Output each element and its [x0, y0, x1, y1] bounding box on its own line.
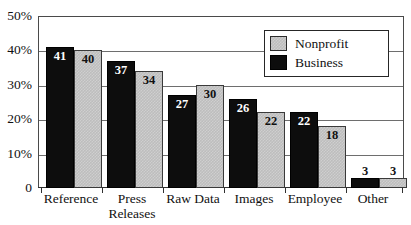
y-axis: 50% 40% 30% 20% 10% 0 — [0, 0, 36, 225]
bar-value: 26 — [230, 102, 256, 115]
x-label-other: Other — [340, 191, 406, 206]
legend-label: Business — [295, 56, 343, 70]
bar-business-other: 3 — [351, 178, 379, 188]
bar-value: 22 — [258, 115, 284, 128]
bar-value: 3 — [352, 165, 378, 178]
bar-value: 22 — [291, 115, 317, 128]
bar-nonprofit-other: 3 — [379, 178, 407, 188]
bar-value: 27 — [169, 98, 195, 111]
legend-item-nonprofit: Nonprofit — [270, 34, 383, 53]
bar-business-employee: 22 — [290, 112, 318, 188]
x-label-employee: Employee — [282, 191, 348, 206]
legend-swatch-business-icon — [270, 55, 287, 70]
bar-business-images: 26 — [229, 99, 257, 188]
bar-business-raw-data: 27 — [168, 95, 196, 188]
x-label-raw-data: Raw Data — [160, 191, 226, 206]
x-label-reference: Reference — [38, 191, 104, 206]
bar-value: 18 — [319, 129, 345, 142]
bar-business-press-releases: 37 — [107, 61, 135, 188]
bar-value: 3 — [380, 165, 406, 178]
x-label-images: Images — [221, 191, 287, 206]
x-label-press-releases: Press Releases — [99, 191, 165, 221]
bar-nonprofit-press-releases: 34 — [135, 71, 163, 188]
y-tick-label: 10% — [7, 147, 32, 161]
y-tick-label: 30% — [7, 78, 32, 92]
bar-nonprofit-employee: 18 — [318, 126, 346, 188]
bar-chart: 50% 40% 30% 20% 10% 0 41 40 37 34 27 — [0, 0, 411, 225]
bar-value: 41 — [47, 50, 73, 63]
bar-value: 40 — [75, 53, 101, 66]
y-tick-label: 0 — [25, 181, 32, 195]
y-tick-label: 50% — [7, 9, 32, 23]
bar-nonprofit-raw-data: 30 — [196, 85, 224, 188]
legend-label: Nonprofit — [295, 37, 348, 51]
legend-swatch-nonprofit-icon — [270, 36, 287, 51]
y-tick-label: 40% — [7, 44, 32, 58]
legend-item-business: Business — [270, 53, 383, 72]
chart-legend: Nonprofit Business — [264, 30, 389, 77]
bar-nonprofit-images: 22 — [257, 112, 285, 188]
bar-value: 30 — [197, 88, 223, 101]
bar-nonprofit-reference: 40 — [74, 50, 102, 188]
bar-value: 37 — [108, 64, 134, 77]
bar-business-reference: 41 — [46, 47, 74, 188]
y-tick-label: 20% — [7, 112, 32, 126]
bar-value: 34 — [136, 74, 162, 87]
